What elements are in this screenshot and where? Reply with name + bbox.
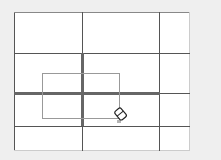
grid-line-bottom xyxy=(14,150,190,151)
grid-line-row-1[interactable] xyxy=(14,53,190,54)
selection-rectangle xyxy=(42,73,120,119)
grid-line-left xyxy=(14,12,15,151)
eraser-icon xyxy=(113,105,129,123)
grid-line-row-3[interactable] xyxy=(14,126,190,127)
grid-line-right xyxy=(189,12,190,151)
grid-line-top xyxy=(14,12,190,13)
grid-line-col-2[interactable] xyxy=(159,12,160,151)
